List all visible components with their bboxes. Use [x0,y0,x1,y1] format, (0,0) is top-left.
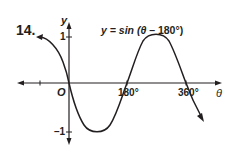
x-axis-left-arrow-icon [17,81,24,86]
x-axis [17,81,222,86]
x-axis-label: θ [216,87,222,99]
x-tick-label-180: 180° [118,87,139,98]
y-axis-label: y [61,14,67,26]
sine-graph [0,0,237,150]
curve-left-arrow-icon [36,34,43,40]
y-tick-label-neg1: –1 [54,126,65,137]
x-tick-label-360: 360° [178,87,199,98]
y-tick-label-1: 1 [60,31,66,42]
y-axis-down-arrow-icon [67,138,72,145]
curve-right-arrow-icon [197,113,204,122]
y-axis-up-arrow-icon [67,22,72,29]
x-axis-right-arrow-icon [215,81,222,86]
origin-label: O [57,86,66,98]
